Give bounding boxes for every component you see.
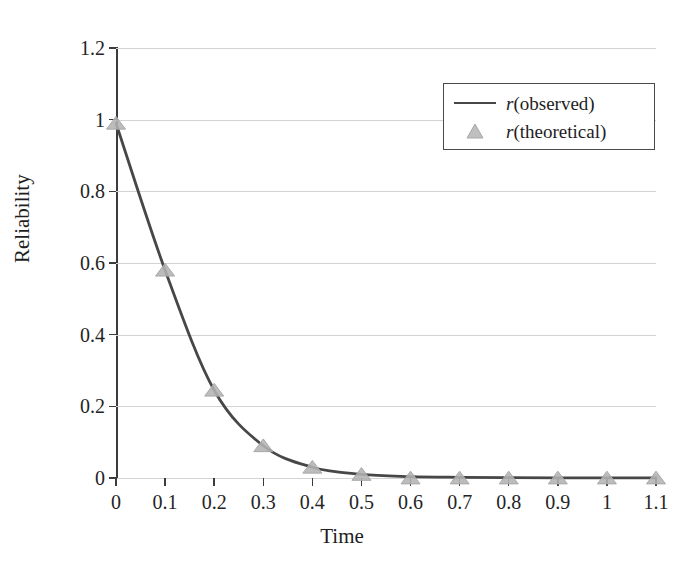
legend-text-observed: (observed) xyxy=(513,93,594,114)
x-axis-title: Time xyxy=(0,524,684,549)
x-axis-tick-label: 0.2 xyxy=(202,492,227,512)
legend: r(observed) r(theoretical) xyxy=(443,83,655,150)
x-axis-tick-label: 0.3 xyxy=(251,492,276,512)
y-axis-tick-label: 0 xyxy=(95,468,105,488)
y-axis-tick-label: 1.2 xyxy=(80,38,105,58)
legend-label-observed: r(observed) xyxy=(506,94,595,113)
y-axis-tick-label: 0.4 xyxy=(80,325,105,345)
y-axis-tick xyxy=(109,406,116,407)
series-theoretical-markers xyxy=(107,116,666,483)
y-axis-tick-label: 0.8 xyxy=(80,181,105,201)
x-axis-tick-label: 1.1 xyxy=(644,492,669,512)
data-point-marker xyxy=(156,263,175,276)
x-axis-tick-label: 0.6 xyxy=(398,492,423,512)
x-axis-tick-label: 0.1 xyxy=(153,492,178,512)
legend-item-theoretical: r(theoretical) xyxy=(444,117,654,145)
x-axis-tick xyxy=(263,478,264,486)
y-axis-title: Reliability xyxy=(10,174,35,263)
x-axis-tick xyxy=(312,478,313,486)
x-axis-tick-label: 0.8 xyxy=(496,492,521,512)
y-axis-tick-label: 1 xyxy=(95,110,105,130)
y-axis-tick xyxy=(109,334,116,335)
reliability-vs-time-chart: Reliability 00.20.40.60.811.2 00.10.20.3… xyxy=(0,0,684,575)
legend-label-theoretical: r(theoretical) xyxy=(506,122,606,141)
x-axis-tick xyxy=(164,478,165,486)
caption-sliver xyxy=(10,566,640,575)
data-point-marker xyxy=(205,383,224,396)
y-axis-tick xyxy=(109,47,116,48)
series-observed-line xyxy=(116,123,656,478)
x-axis-tick xyxy=(115,478,116,486)
legend-triangle-swatch xyxy=(444,122,506,140)
y-axis-tick xyxy=(109,262,116,263)
y-axis-tick-label: 0.6 xyxy=(80,253,105,273)
x-axis-tick-label: 1 xyxy=(602,492,612,512)
x-axis-tick-label: 0.7 xyxy=(447,492,472,512)
x-axis-tick-label: 0.4 xyxy=(300,492,325,512)
x-axis-tick xyxy=(213,478,214,486)
legend-item-observed: r(observed) xyxy=(444,89,654,117)
x-axis-tick-label: 0.5 xyxy=(349,492,374,512)
legend-line-swatch xyxy=(444,102,506,105)
x-axis-tick-label: 0.9 xyxy=(545,492,570,512)
triangle-icon xyxy=(465,122,485,140)
y-axis-tick-label: 0.2 xyxy=(80,396,105,416)
x-axis-tick-label: 0 xyxy=(111,492,121,512)
y-axis-tick xyxy=(109,191,116,192)
legend-text-theoretical: (theoretical) xyxy=(513,121,606,142)
